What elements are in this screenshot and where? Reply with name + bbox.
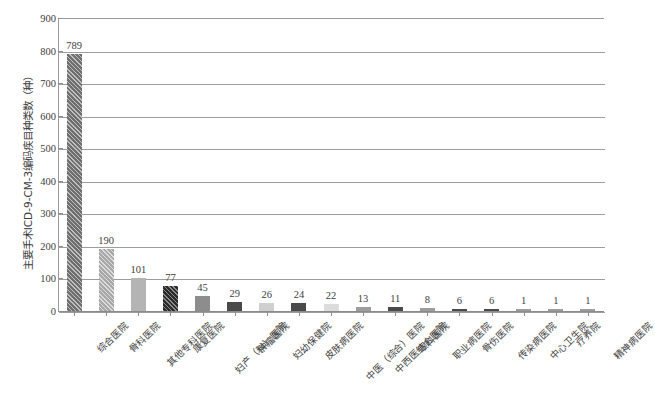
- bar: [195, 296, 210, 311]
- y-tick-mark: [58, 148, 63, 149]
- x-axis-label: 综合医院: [94, 318, 132, 356]
- x-tick-mark: [138, 312, 139, 316]
- bar-value-label: 101: [130, 264, 146, 275]
- bar-value-label: 6: [489, 295, 494, 306]
- bar: [163, 286, 178, 311]
- bar-value-label: 24: [294, 289, 305, 300]
- bar: [99, 249, 114, 311]
- bar: [484, 309, 499, 311]
- y-tick-mark: [58, 213, 63, 214]
- bar: [131, 278, 146, 311]
- x-tick-mark: [235, 312, 236, 316]
- x-tick-mark: [299, 312, 300, 316]
- bar-value-label: 45: [197, 282, 208, 293]
- x-tick-mark: [203, 312, 204, 316]
- x-tick-mark: [556, 312, 557, 316]
- bar: [388, 307, 403, 311]
- x-tick-mark: [74, 312, 75, 316]
- x-tick-mark: [106, 312, 107, 316]
- x-tick-mark: [170, 312, 171, 316]
- y-tick-mark: [58, 311, 63, 312]
- bar-value-label: 6: [457, 295, 462, 306]
- bar-value-label: 1: [521, 295, 526, 306]
- x-tick-mark: [331, 312, 332, 316]
- x-tick-mark: [524, 312, 525, 316]
- bar: [580, 309, 595, 311]
- bar-value-label: 22: [326, 290, 337, 301]
- y-tick-mark: [58, 51, 63, 52]
- bar: [516, 309, 531, 311]
- bar: [324, 304, 339, 311]
- bar-value-label: 29: [229, 288, 240, 299]
- y-tick-mark: [58, 83, 63, 84]
- x-tick-mark: [395, 312, 396, 316]
- bar-value-label: 8: [425, 294, 430, 305]
- bar: [548, 309, 563, 311]
- bar-value-label: 1: [585, 295, 590, 306]
- bar-value-label: 190: [98, 235, 114, 246]
- x-tick-mark: [363, 312, 364, 316]
- y-tick-mark: [58, 278, 63, 279]
- bar-value-label: 11: [390, 293, 400, 304]
- x-axis-label: 精神病医院: [610, 318, 655, 363]
- y-tick-mark: [58, 246, 63, 247]
- bar: [227, 302, 242, 311]
- y-tick-mark: [58, 181, 63, 182]
- x-tick-mark: [492, 312, 493, 316]
- bar-value-label: 77: [165, 272, 176, 283]
- bar: [356, 307, 371, 311]
- bar: [67, 54, 82, 311]
- bar: [291, 303, 306, 311]
- bar: [452, 309, 467, 311]
- x-tick-mark: [588, 312, 589, 316]
- bar-value-label: 1: [553, 295, 558, 306]
- bar-value-label: 789: [66, 40, 82, 51]
- bar-value-label: 26: [262, 289, 273, 300]
- x-tick-mark: [459, 312, 460, 316]
- x-tick-mark: [427, 312, 428, 316]
- bar: [259, 303, 274, 311]
- y-tick-mark: [58, 116, 63, 117]
- x-axis-label: 骨科医院: [126, 318, 164, 356]
- y-tick-mark: [58, 18, 63, 19]
- x-tick-mark: [267, 312, 268, 316]
- bar: [420, 308, 435, 311]
- bar-value-label: 13: [358, 293, 369, 304]
